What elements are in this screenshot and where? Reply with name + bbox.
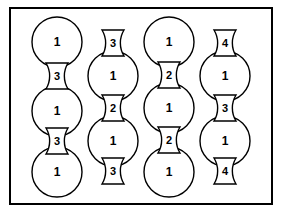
circle-label: 1 — [54, 165, 61, 179]
circle-label: 1 — [166, 165, 173, 179]
circle-label: 1 — [54, 35, 61, 49]
connector-label: 4 — [222, 165, 229, 177]
circle-label: 1 — [222, 69, 229, 83]
connector-label: 2 — [166, 69, 172, 81]
circle-label: 1 — [110, 69, 117, 83]
circle-label: 1 — [222, 134, 229, 148]
connector-label: 3 — [110, 165, 116, 177]
diagram-shapes: 11133113231112211434 — [0, 0, 282, 212]
shape-group — [32, 17, 250, 197]
connector-label: 4 — [222, 37, 229, 49]
connector-label: 3 — [54, 135, 60, 147]
circle-label: 1 — [166, 35, 173, 49]
diagram-canvas: 11133113231112211434 — [0, 0, 282, 212]
circle-label: 1 — [110, 134, 117, 148]
connector-label: 3 — [222, 102, 228, 114]
connector-label: 3 — [110, 37, 116, 49]
connector-label: 2 — [166, 134, 172, 146]
circle-label: 1 — [54, 104, 61, 118]
connector-label: 2 — [110, 102, 116, 114]
circle-label: 1 — [166, 101, 173, 115]
connector-label: 3 — [54, 70, 60, 82]
